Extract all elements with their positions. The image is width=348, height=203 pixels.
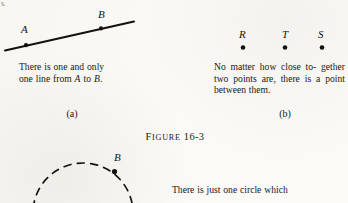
point-label-s: S (318, 29, 324, 40)
point-label-a: A (21, 24, 28, 35)
paper-texture (0, 0, 348, 203)
panel-b-diagram (241, 45, 325, 50)
page-corner-fragment: s. (1, 0, 5, 8)
point-s-dot (320, 45, 325, 50)
figure-number-label: FIGURE16-3 (95, 131, 255, 142)
point-label-t: T (282, 29, 288, 40)
subfigure-tag-b: (b) (260, 108, 310, 119)
panel-a-caption-line2-pre: one line from (19, 73, 75, 84)
panel-a-caption-line2-end: . (100, 73, 102, 84)
panel-c-caption-line1: There is just one circle which (172, 184, 288, 195)
figure-label-number: 16-3 (184, 131, 205, 142)
panel-a-caption-line2-mid: to (81, 73, 94, 84)
panel-c-caption: There is just one circle which (172, 184, 344, 196)
point-t-dot (283, 45, 288, 50)
figure-page: s. A B R T S B There is one and only one… (0, 0, 348, 203)
panel-a-caption-line1: There is one and only (19, 61, 104, 72)
point-b-circle-dot (112, 169, 117, 174)
panel-c-diagram (33, 163, 133, 203)
panel-b-caption: No matter how close to- gether two point… (214, 61, 345, 96)
panel-a-caption: There is one and only one line from A to… (19, 61, 143, 84)
point-r-dot (241, 45, 246, 50)
figure-label-word: FIGURE (146, 131, 181, 142)
point-a-dot (24, 43, 28, 47)
point-label-r: R (239, 29, 246, 40)
panel-b-caption-line1: No matter how close to- (214, 61, 316, 72)
subfigure-tag-a: (a) (47, 108, 97, 119)
dashed-circle (33, 163, 133, 203)
point-b-dot (99, 26, 103, 30)
figure-drawing-layer (0, 0, 348, 203)
point-label-b: B (98, 9, 105, 20)
point-label-b-circle: B (114, 152, 121, 163)
